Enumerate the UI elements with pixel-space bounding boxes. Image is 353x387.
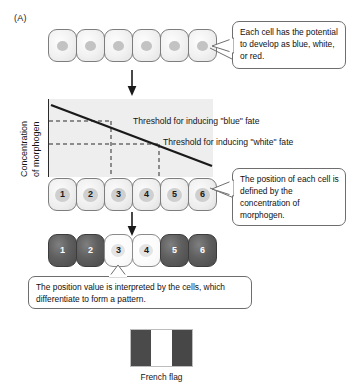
callout-tail-icon bbox=[107, 264, 129, 278]
callout-text: The position of each cell is defined by … bbox=[240, 174, 339, 220]
flag-band-white bbox=[151, 330, 171, 366]
cell-position-4: 4 bbox=[132, 178, 161, 211]
panel-label: (A) bbox=[14, 13, 27, 23]
cell-label: 6 bbox=[200, 190, 205, 199]
flag-band-red bbox=[172, 330, 192, 366]
french-flag bbox=[130, 329, 193, 367]
nucleus-icon bbox=[57, 41, 68, 51]
cell-label: 5 bbox=[172, 246, 177, 255]
cell-label: 2 bbox=[88, 246, 93, 255]
cell-undifferentiated bbox=[48, 29, 77, 62]
callout-cell-potential: Each cell has the potential to develop a… bbox=[232, 21, 346, 69]
cell-fate-blue-1: 1 bbox=[48, 234, 77, 267]
nucleus-icon bbox=[141, 41, 152, 51]
cell-fate-blue-2: 2 bbox=[76, 234, 105, 267]
callout-text: Each cell has the potential to develop a… bbox=[240, 27, 338, 61]
threshold-blue-label: Threshold for inducing "blue" fate bbox=[133, 116, 260, 126]
cell-label: 3 bbox=[116, 246, 121, 255]
cell-label: 2 bbox=[88, 190, 93, 199]
callout-interpretation: The position value is interpreted by the… bbox=[28, 276, 252, 309]
threshold-white-label: Threshold for inducing "white" fate bbox=[163, 137, 293, 147]
cell-label: 3 bbox=[116, 190, 121, 199]
nucleus-icon bbox=[197, 41, 208, 51]
nucleus-icon bbox=[169, 41, 180, 51]
callout-tail-icon bbox=[211, 179, 234, 197]
cell-undifferentiated bbox=[160, 29, 189, 62]
cell-position-2: 2 bbox=[76, 178, 105, 211]
down-arrow-icon bbox=[126, 212, 138, 236]
y-axis-label-line2: of morphogen bbox=[32, 121, 41, 177]
cell-undifferentiated bbox=[132, 29, 161, 62]
cell-label: 1 bbox=[60, 190, 65, 199]
cell-position-1: 1 bbox=[48, 178, 77, 211]
cell-undifferentiated bbox=[76, 29, 105, 62]
cell-position-3: 3 bbox=[104, 178, 133, 211]
numbered-cell-row: 1 2 3 4 5 6 bbox=[48, 178, 216, 211]
cell-label: 6 bbox=[200, 246, 205, 255]
callout-tail-icon bbox=[211, 37, 234, 54]
cell-undifferentiated bbox=[104, 29, 133, 62]
y-axis-label-line1: Concentration bbox=[20, 121, 29, 177]
cell-label: 1 bbox=[60, 246, 65, 255]
nucleus-icon bbox=[85, 41, 96, 51]
undifferentiated-cell-row bbox=[48, 29, 216, 62]
down-arrow-icon bbox=[126, 70, 138, 96]
cell-fate-white-3: 3 bbox=[104, 234, 133, 267]
callout-text: The position value is interpreted by the… bbox=[36, 282, 225, 304]
cell-fate-white-4: 4 bbox=[132, 234, 161, 267]
callout-position-value: The position of each cell is defined by … bbox=[232, 168, 346, 226]
flag-band-blue bbox=[131, 330, 151, 366]
nucleus-icon bbox=[113, 41, 124, 51]
cell-label: 4 bbox=[144, 246, 149, 255]
figure-panel-a: (A) bbox=[0, 0, 353, 387]
cell-position-5: 5 bbox=[160, 178, 189, 211]
cell-label: 5 bbox=[172, 190, 177, 199]
flag-caption: French flag bbox=[130, 372, 193, 382]
differentiated-cell-row: 1 2 3 4 5 6 bbox=[48, 234, 216, 267]
cell-fate-red-6: 6 bbox=[188, 234, 217, 267]
cell-fate-red-5: 5 bbox=[160, 234, 189, 267]
cell-label: 4 bbox=[144, 190, 149, 199]
morphogen-gradient-line bbox=[51, 105, 212, 166]
